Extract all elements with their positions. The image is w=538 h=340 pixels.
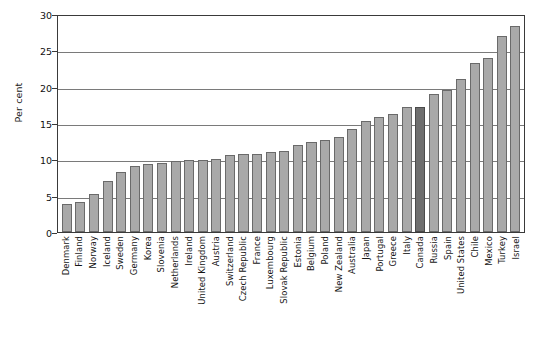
y-tick-label: 30 — [0, 10, 52, 21]
x-label-slot: Slovak Republic — [277, 236, 291, 336]
x-tick-label: Slovak Republic — [279, 236, 289, 304]
y-tick-label: 20 — [0, 82, 52, 93]
x-tick-label: Norway — [88, 236, 98, 268]
x-tick-label: United States — [456, 236, 466, 294]
y-tick-label: 0 — [0, 228, 52, 239]
x-tick-label: Finland — [74, 236, 84, 267]
x-label-slot: Israel — [509, 236, 523, 336]
x-label-slot: Czech Republic — [236, 236, 250, 336]
x-label-slot: France — [250, 236, 264, 336]
y-tick-label: 15 — [0, 119, 52, 130]
bar-series — [58, 16, 524, 232]
bar-slot — [332, 16, 346, 232]
bar-ireland — [184, 160, 194, 232]
x-label-slot: Turkey — [496, 236, 510, 336]
bar-slovenia — [157, 163, 167, 232]
x-tick-label: Estonia — [293, 236, 303, 268]
x-tick-label: Korea — [143, 236, 153, 260]
x-tick-label: France — [252, 236, 262, 264]
x-tick-label: Austria — [211, 236, 221, 266]
bar-slot — [264, 16, 278, 232]
x-tick-label: Iceland — [102, 236, 112, 267]
x-tick-label: Denmark — [61, 236, 71, 275]
bar-korea — [143, 164, 153, 232]
bar-slot — [87, 16, 101, 232]
bar-denmark — [62, 204, 72, 232]
bar-slot — [441, 16, 455, 232]
bar-united-states — [456, 79, 466, 232]
x-label-slot: United States — [455, 236, 469, 336]
bar-canada — [415, 107, 425, 232]
x-tick-label: Luxembourg — [265, 236, 275, 289]
x-label-slot: Switzerland — [223, 236, 237, 336]
x-label-slot: Denmark — [59, 236, 73, 336]
x-tick-label: Belgium — [306, 236, 316, 271]
bar-norway — [89, 194, 99, 232]
bar-slot — [128, 16, 142, 232]
x-tick-label: Greece — [388, 236, 398, 266]
y-tick-label: 25 — [0, 46, 52, 57]
bar-belgium — [306, 142, 316, 232]
x-tick-label: Switzerland — [225, 236, 235, 286]
bar-slot — [250, 16, 264, 232]
bar-slot — [237, 16, 251, 232]
x-tick-label: Russia — [429, 236, 439, 264]
x-label-slot: Chile — [468, 236, 482, 336]
x-label-slot: Mexico — [482, 236, 496, 336]
bar-slot — [386, 16, 400, 232]
bar-slot — [60, 16, 74, 232]
bar-slot — [318, 16, 332, 232]
bar-slot — [74, 16, 88, 232]
x-tick-label: Germany — [129, 236, 139, 275]
x-tick-label: Israel — [511, 236, 521, 260]
x-label-slot: Italy — [400, 236, 414, 336]
bar-russia — [429, 94, 439, 232]
bar-slot — [345, 16, 359, 232]
x-label-slot: Spain — [441, 236, 455, 336]
x-tick-label: Canada — [415, 236, 425, 268]
x-tick-label: Czech Republic — [238, 236, 248, 301]
bar-portugal — [374, 117, 384, 232]
x-label-slot: Norway — [86, 236, 100, 336]
bar-mexico — [483, 58, 493, 232]
bar-switzerland — [225, 155, 235, 232]
x-tick-label: Japan — [361, 236, 371, 260]
x-label-slot: New Zealand — [332, 236, 346, 336]
x-label-slot: Luxembourg — [264, 236, 278, 336]
x-label-slot: United Kingdom — [195, 236, 209, 336]
y-tick-label: 10 — [0, 155, 52, 166]
bar-slot — [359, 16, 373, 232]
bar-slot — [169, 16, 183, 232]
x-tick-label: Sweden — [115, 236, 125, 270]
bar-slot — [400, 16, 414, 232]
x-tick-label: Netherlands — [170, 236, 180, 288]
x-label-slot: Sweden — [114, 236, 128, 336]
bar-israel — [510, 26, 520, 232]
bar-slot — [454, 16, 468, 232]
x-tick-label: New Zealand — [334, 236, 344, 292]
x-label-slot: Australia — [345, 236, 359, 336]
x-tick-label: United Kingdom — [197, 236, 207, 305]
bar-slot — [468, 16, 482, 232]
bar-slot — [291, 16, 305, 232]
bar-slot — [305, 16, 319, 232]
percent-bar-chart: Per cent 051015202530 DenmarkFinlandNorw… — [0, 0, 538, 340]
x-label-slot: Slovenia — [154, 236, 168, 336]
bar-germany — [130, 166, 140, 232]
x-tick-label: Slovenia — [156, 236, 166, 272]
bar-japan — [361, 121, 371, 232]
bar-chile — [470, 63, 480, 232]
x-label-slot: Austria — [209, 236, 223, 336]
bar-slot — [427, 16, 441, 232]
bar-poland — [320, 140, 330, 232]
bar-italy — [402, 107, 412, 232]
x-axis-labels: DenmarkFinlandNorwayIcelandSwedenGermany… — [57, 236, 525, 336]
x-tick-label: Australia — [347, 236, 357, 274]
x-label-slot: Belgium — [305, 236, 319, 336]
y-tick-mark — [52, 233, 57, 234]
bar-slot — [196, 16, 210, 232]
bar-estonia — [293, 145, 303, 232]
x-tick-label: Ireland — [184, 236, 194, 266]
x-tick-label: Spain — [443, 236, 453, 260]
x-label-slot: Finland — [73, 236, 87, 336]
